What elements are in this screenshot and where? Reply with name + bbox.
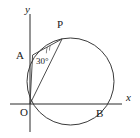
label-angle-measure: 30° [36,56,49,66]
label-y-axis: y [24,3,30,15]
geometry-figure-canvas: O A P B x y 30° [0,0,140,138]
label-point-A: A [16,49,24,61]
chords-group [30,39,62,104]
label-origin-O: O [20,106,28,118]
label-point-P: P [57,18,63,30]
geometry-diagram-svg: O A P B x y 30° [0,0,140,138]
label-point-B: B [96,107,103,119]
label-x-axis: x [125,91,131,103]
segment-OP [30,39,62,104]
